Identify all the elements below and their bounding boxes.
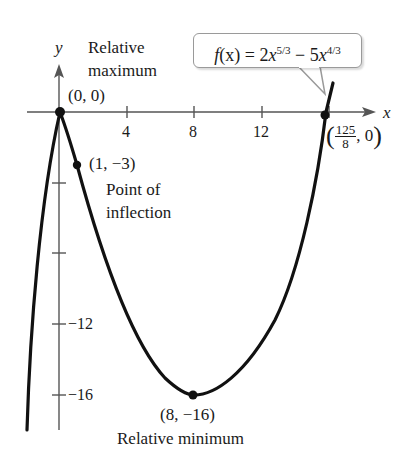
zero-point bbox=[321, 111, 330, 120]
zero-paren-open: ( bbox=[326, 121, 335, 150]
y-axis-label: y bbox=[55, 38, 63, 57]
function-curve bbox=[27, 83, 333, 430]
x-tick-12: 12 bbox=[253, 124, 269, 140]
inflection-label-line1: Point of bbox=[106, 180, 160, 199]
callout-exp1: 5/3 bbox=[276, 44, 290, 56]
rel-min-point bbox=[189, 391, 198, 400]
y-tick-m12: −12 bbox=[68, 316, 93, 332]
zero-point-label: (1258, 0) bbox=[326, 121, 382, 151]
zero-den: 8 bbox=[335, 137, 357, 150]
callout-var2: x bbox=[319, 45, 327, 65]
zero-paren-close: ) bbox=[373, 121, 382, 150]
inflection-point-label: (1, −3) bbox=[89, 154, 135, 173]
zero-tail: , 0 bbox=[356, 126, 373, 145]
callout-tail bbox=[298, 66, 325, 94]
rel-max-point bbox=[55, 107, 65, 117]
min-point-label: (8, −16) bbox=[160, 405, 215, 424]
origin-point-label: (0, 0) bbox=[68, 86, 105, 105]
x-axis-label: x bbox=[383, 103, 391, 122]
zero-fraction: 1258 bbox=[335, 123, 357, 150]
callout-minus: − 5 bbox=[291, 45, 319, 65]
callout-x-eq: (x) = 2 bbox=[219, 45, 268, 65]
callout-join bbox=[299, 65, 319, 68]
inflection-point bbox=[73, 161, 81, 169]
function-graph bbox=[0, 0, 416, 462]
x-tick-4: 4 bbox=[122, 124, 130, 140]
x-tick-8: 8 bbox=[189, 124, 197, 140]
zero-num: 125 bbox=[335, 123, 357, 137]
inflection-label-line2: inflection bbox=[106, 203, 171, 222]
function-label-callout: f(x) = 2x5/3 − 5x4/3 bbox=[193, 33, 362, 68]
min-note-label: Relative minimum bbox=[117, 429, 244, 448]
y-tick-m16: −16 bbox=[68, 387, 93, 403]
callout-exp2: 4/3 bbox=[327, 44, 341, 56]
rel-max-label-line2: maximum bbox=[88, 61, 157, 80]
rel-max-label-line1: Relative bbox=[88, 38, 145, 57]
